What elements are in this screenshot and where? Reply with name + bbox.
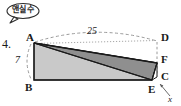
vertex-label-c: C (161, 71, 169, 82)
vertex-label-b: B (25, 82, 32, 93)
speech-bubble-label: 앤실수 (11, 6, 35, 14)
dashed-arc-ab (27, 44, 31, 79)
measure-label-ab: 7 (15, 55, 20, 65)
problem-number: 4. (2, 38, 11, 50)
vertex-label-e: E (148, 84, 155, 95)
vertex-label-a: A (26, 32, 34, 43)
vertex-label-f: F (161, 54, 168, 65)
dotted-guide-ad (35, 41, 156, 44)
measure-label-x: x (168, 95, 172, 104)
measure-label-ad: 25 (87, 26, 97, 36)
vertex-label-d: D (161, 32, 169, 43)
figure-canvas: 앤실수 4. A B C D E F 25 7 x (0, 0, 181, 106)
speech-bubble-tail (10, 17, 18, 23)
